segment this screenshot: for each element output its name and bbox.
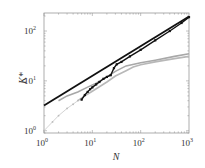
data-marker (106, 76, 108, 78)
dotted-marker (72, 103, 74, 105)
y-axis-label: K* (17, 72, 28, 85)
x-axis-label: N (112, 151, 121, 162)
data-marker (113, 67, 115, 69)
data-marker (154, 39, 156, 41)
data-marker (169, 30, 171, 32)
series-layer (43, 16, 190, 132)
dotted-marker (43, 130, 45, 132)
dotted-marker (52, 121, 54, 123)
x-tick-label: 103 (181, 137, 193, 148)
fit-line (44, 17, 189, 106)
data-marker (81, 99, 83, 101)
data-marker (110, 74, 112, 76)
data-marker (87, 91, 89, 93)
y-tick-label: 102 (24, 25, 36, 36)
chart: 100101102103 100101102 N K* (0, 0, 205, 168)
dotted-marker (58, 115, 60, 117)
dotted-marker (66, 108, 68, 110)
gray-curve (78, 56, 189, 100)
x-tick-label: 102 (133, 137, 145, 148)
data-marker (91, 86, 93, 88)
data-marker (116, 63, 118, 65)
dotted-curve (44, 101, 78, 131)
data-marker (188, 16, 190, 18)
x-tick-label: 100 (36, 137, 48, 148)
data-marker (180, 22, 182, 24)
data-marker (140, 49, 142, 51)
data-marker (98, 81, 100, 83)
x-axis-ticks: 100101102103 (36, 137, 193, 148)
data-marker (102, 78, 104, 80)
x-tick-label: 101 (84, 137, 96, 148)
y-tick-label: 100 (24, 125, 36, 136)
data-marker (120, 61, 122, 63)
data-marker (84, 94, 86, 96)
data-marker (95, 83, 97, 85)
minor-ticks (44, 13, 189, 133)
plot-frame (44, 13, 189, 133)
data-marker (89, 88, 91, 90)
data-marker (129, 55, 131, 57)
